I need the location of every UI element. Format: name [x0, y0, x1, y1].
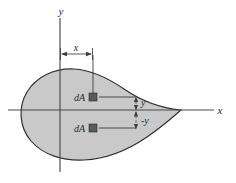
x-dimension-arrow-right-icon [86, 52, 92, 56]
x-dimension-arrow-left-icon [61, 52, 67, 56]
x-dimension-label: x [73, 42, 79, 53]
teardrop-area-shape [21, 69, 181, 160]
lower-distance-label: -y [141, 115, 149, 126]
lower-area-element-label: dA [74, 123, 86, 134]
statics-area-diagram: x dA dA y -y y x [0, 0, 236, 183]
figure-canvas: x dA dA y -y y x [0, 0, 236, 183]
y-axis-label: y [58, 5, 64, 17]
upper-area-element-square [89, 93, 97, 101]
upper-distance-label: y [140, 97, 146, 108]
lower-area-element-square [89, 124, 97, 132]
x-axis-label: x [217, 104, 223, 116]
upper-area-element-label: dA [74, 92, 86, 103]
